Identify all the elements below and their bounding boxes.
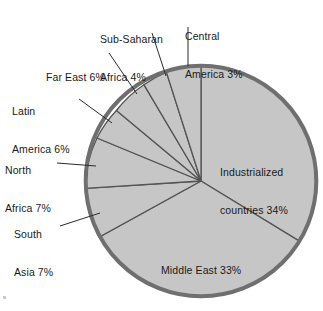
label-south-asia-line1: South (14, 228, 53, 241)
label-industrialized-countries-line2: countries 34% (220, 204, 288, 217)
label-sub-saharan-africa-line2: Africa 4% (100, 71, 163, 84)
label-middle-east: Middle East 33% (161, 239, 241, 302)
label-central-america-line1: Central (185, 30, 243, 43)
label-central-america: Central America 3% (185, 5, 243, 105)
label-industrialized-countries: Industrialized countries 34% (220, 141, 288, 241)
pie-chart-figure: Sub-Saharan Africa 4% Central America 3%… (0, 0, 323, 311)
label-south-asia-line2: Asia 7% (14, 266, 53, 279)
label-sub-saharan-africa-line1: Sub-Saharan (100, 33, 163, 46)
label-middle-east-line1: Middle East 33% (161, 264, 241, 277)
label-industrialized-countries-line1: Industrialized (220, 166, 288, 179)
label-sub-saharan-africa: Sub-Saharan Africa 4% (100, 8, 163, 108)
label-central-america-line2: America 3% (185, 68, 243, 81)
scan-speck (3, 296, 6, 299)
label-south-asia: South Asia 7% (14, 203, 53, 303)
label-latin-america-line1: Latin (12, 105, 70, 118)
label-north-africa-line1: North (5, 164, 51, 177)
